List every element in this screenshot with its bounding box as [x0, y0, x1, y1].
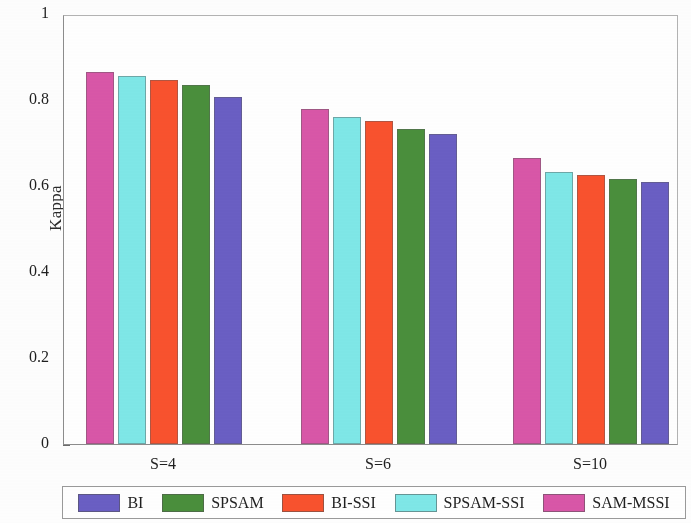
y-tick-label: 0 — [41, 434, 49, 452]
bar — [429, 134, 457, 444]
bar-group — [513, 14, 673, 444]
bar-group — [86, 14, 246, 444]
legend-entry-bi-ssi[interactable]: BI-SSI — [282, 494, 375, 512]
bar — [214, 97, 242, 444]
legend-color-swatch — [162, 494, 204, 512]
y-tick: 0.8 — [0, 101, 63, 102]
legend-entry-spsam-ssi[interactable]: SPSAM-SSI — [395, 494, 525, 512]
bar — [365, 121, 393, 444]
bar — [397, 129, 425, 444]
bar-chart-figure: Kappa 00.20.40.60.81 S=4S=6S=10 BISPSAMB… — [0, 0, 691, 523]
bar — [545, 172, 573, 444]
legend-color-swatch — [543, 494, 585, 512]
y-tick: 0.2 — [0, 359, 63, 360]
y-tick-label: 0.8 — [29, 90, 49, 108]
bar — [641, 182, 669, 444]
legend-label: SPSAM — [211, 494, 263, 512]
bar — [150, 80, 178, 444]
y-tick-label: 0.6 — [29, 176, 49, 194]
y-tick: 1 — [0, 15, 63, 16]
x-tick-label: S=4 — [83, 455, 243, 473]
y-tick-label: 0.2 — [29, 348, 49, 366]
legend-color-swatch — [78, 494, 120, 512]
bar — [118, 76, 146, 444]
legend-label: SPSAM-SSI — [444, 494, 525, 512]
x-tick-label: S=6 — [298, 455, 458, 473]
legend-label: BI — [127, 494, 143, 512]
legend-color-swatch — [282, 494, 324, 512]
legend-entry-bi[interactable]: BI — [78, 494, 143, 512]
bar — [182, 85, 210, 444]
chart-legend: BISPSAMBI-SSISPSAM-SSISAM-MSSI — [62, 486, 686, 519]
bar — [577, 175, 605, 444]
legend-color-swatch — [395, 494, 437, 512]
bar — [609, 179, 637, 444]
legend-entry-spsam[interactable]: SPSAM — [162, 494, 263, 512]
y-tick-label: 1 — [41, 4, 49, 22]
bar — [513, 158, 541, 444]
bar — [333, 117, 361, 444]
bar — [86, 72, 114, 444]
bar — [301, 109, 329, 444]
plot-area — [63, 15, 678, 445]
y-tick: 0 — [0, 445, 63, 446]
y-tick: 0.6 — [0, 187, 63, 188]
legend-entry-sam-mssi[interactable]: SAM-MSSI — [543, 494, 669, 512]
legend-label: SAM-MSSI — [592, 494, 669, 512]
legend-label: BI-SSI — [331, 494, 375, 512]
y-tick-label: 0.4 — [29, 262, 49, 280]
y-tick: 0.4 — [0, 273, 63, 274]
y-tick-mark — [63, 445, 70, 446]
bar-group — [301, 14, 461, 444]
x-tick-label: S=10 — [510, 455, 670, 473]
